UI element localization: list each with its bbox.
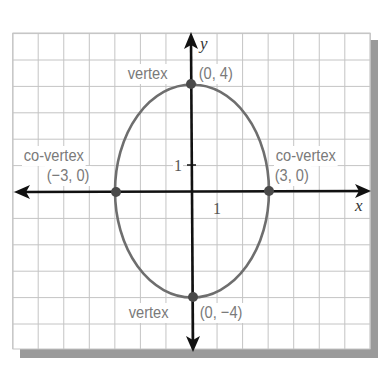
right-covertex-point xyxy=(264,186,274,196)
top-vertex-point xyxy=(186,79,196,89)
graph-canvas xyxy=(0,0,380,372)
left-covertex-point xyxy=(111,187,121,197)
right-covertex-word: co-vertex xyxy=(274,146,338,166)
x-axis-label: x xyxy=(355,197,363,215)
top-vertex-word: vertex xyxy=(126,64,169,84)
left-covertex-coord: (−3, 0) xyxy=(45,166,91,186)
ellipse-figure: y x 1 1 vertex (0, 4) co-vertex (−3, 0) … xyxy=(0,0,380,372)
right-covertex-coord: (3, 0) xyxy=(273,166,311,186)
y-axis-label: y xyxy=(200,35,208,53)
top-vertex-coord: (0, 4) xyxy=(197,64,235,84)
bottom-vertex-word: vertex xyxy=(127,303,170,323)
y-tick-label: 1 xyxy=(173,157,183,175)
bottom-vertex-coord: (0, −4) xyxy=(198,303,244,323)
left-covertex-word: co-vertex xyxy=(22,146,86,166)
bottom-vertex-point xyxy=(188,292,198,302)
x-tick-label: 1 xyxy=(212,200,222,218)
